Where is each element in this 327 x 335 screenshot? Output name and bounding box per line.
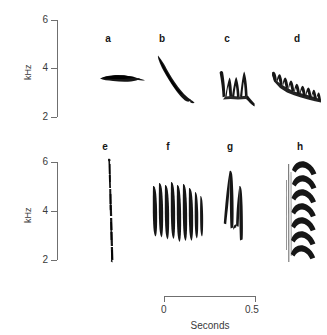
panel-letter-g: g bbox=[220, 142, 240, 152]
scalebar-tick-start bbox=[164, 296, 165, 302]
scalebar-horizontal-line bbox=[164, 296, 256, 297]
trace-d bbox=[268, 62, 326, 104]
trace-a bbox=[92, 60, 148, 90]
time-scalebar: 0 0.5 Seconds bbox=[0, 288, 327, 335]
axis-tick-bottom-4 bbox=[51, 211, 57, 212]
panel-c: c bbox=[213, 0, 271, 140]
axis-tick-label-bottom-4: 4 bbox=[32, 206, 48, 216]
panel-letter-a: a bbox=[98, 34, 118, 44]
panel-letter-b: b bbox=[152, 34, 172, 44]
trace-h bbox=[270, 158, 327, 270]
spectrogram-row-bottom: 6 4 2 kHz e bbox=[0, 140, 327, 290]
trace-b bbox=[150, 52, 210, 110]
spectrogram-row-top: 6 4 2 kHz a b bbox=[0, 0, 327, 140]
panel-e: e bbox=[95, 140, 145, 290]
trace-c bbox=[209, 58, 267, 110]
panel-letter-d: d bbox=[287, 34, 307, 44]
panel-h: h bbox=[270, 140, 327, 290]
panel-a: a bbox=[98, 0, 154, 140]
panel-letter-e: e bbox=[95, 142, 115, 152]
scalebar-tick-end bbox=[255, 296, 256, 302]
axis-tick-bottom-2 bbox=[51, 260, 57, 261]
trace-g bbox=[212, 162, 268, 262]
scalebar-label-start: 0 bbox=[161, 305, 167, 315]
trace-f bbox=[148, 176, 206, 258]
panel-g: g bbox=[212, 140, 268, 290]
scalebar-caption: Seconds bbox=[150, 321, 270, 331]
panel-d: d bbox=[272, 0, 327, 140]
panel-letter-h: h bbox=[290, 142, 310, 152]
panel-letter-f: f bbox=[158, 142, 178, 152]
trace-e bbox=[99, 158, 129, 268]
axis-tick-top-2 bbox=[51, 117, 57, 118]
panel-b: b bbox=[152, 0, 212, 140]
axis-spine-top bbox=[57, 20, 58, 117]
spectrogram-figure: 6 4 2 kHz a b bbox=[0, 0, 327, 335]
axis-tick-label-top-6: 6 bbox=[32, 15, 48, 25]
axis-tick-label-bottom-2: 2 bbox=[32, 255, 48, 265]
axis-title-bottom-khz: kHz bbox=[24, 208, 33, 224]
axis-tick-label-top-4: 4 bbox=[32, 63, 48, 73]
axis-spine-bottom bbox=[57, 162, 58, 260]
axis-tick-top-6 bbox=[51, 20, 57, 21]
scalebar-label-end: 0.5 bbox=[245, 305, 259, 315]
axis-tick-top-4 bbox=[51, 68, 57, 69]
axis-tick-bottom-6 bbox=[51, 162, 57, 163]
axis-title-top-khz: kHz bbox=[24, 65, 33, 81]
panel-f: f bbox=[148, 140, 206, 290]
axis-tick-label-bottom-6: 6 bbox=[32, 157, 48, 167]
frequency-axis-top: 6 4 2 kHz bbox=[0, 0, 70, 140]
axis-tick-label-top-2: 2 bbox=[32, 112, 48, 122]
panel-letter-c: c bbox=[217, 34, 237, 44]
frequency-axis-bottom: 6 4 2 kHz bbox=[0, 140, 70, 290]
